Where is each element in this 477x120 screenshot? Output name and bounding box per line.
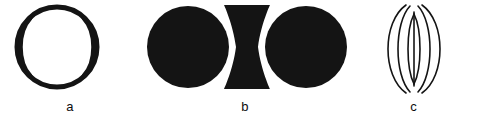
figure-panel-c: c xyxy=(350,0,477,120)
inner-arc-left xyxy=(20,18,30,76)
figure-sheet: a b xyxy=(0,0,477,120)
disk-left xyxy=(147,6,229,88)
nested-lens-graphic xyxy=(350,0,477,100)
figure-panel-b: b xyxy=(140,0,350,120)
tennis-ball-circle-graphic xyxy=(0,0,140,100)
inner-arc-right xyxy=(84,18,94,76)
lens-inner-right-arc xyxy=(414,14,420,84)
caption-c: c xyxy=(350,100,477,114)
caption-a: a xyxy=(0,100,140,114)
disk-right xyxy=(265,6,347,88)
rubin-vase-graphic xyxy=(140,0,350,100)
caption-b: b xyxy=(140,100,350,114)
figure-panel-a: a xyxy=(0,0,140,120)
vase-silhouette xyxy=(224,5,270,89)
lens-inner-left-arc xyxy=(408,14,414,84)
